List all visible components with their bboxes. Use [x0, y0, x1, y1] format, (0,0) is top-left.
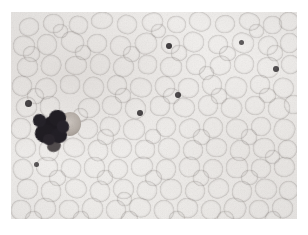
platelets-layer — [11, 12, 297, 219]
platelet — [239, 40, 244, 45]
platelet — [273, 66, 279, 72]
platelet — [137, 110, 143, 116]
platelet — [34, 162, 39, 167]
platelet — [175, 92, 181, 98]
image-viewport: Peripheral blood smear micrograph Wright… — [0, 0, 308, 235]
blood-smear-micrograph — [11, 12, 297, 219]
platelet — [25, 100, 32, 107]
platelet — [166, 43, 172, 49]
